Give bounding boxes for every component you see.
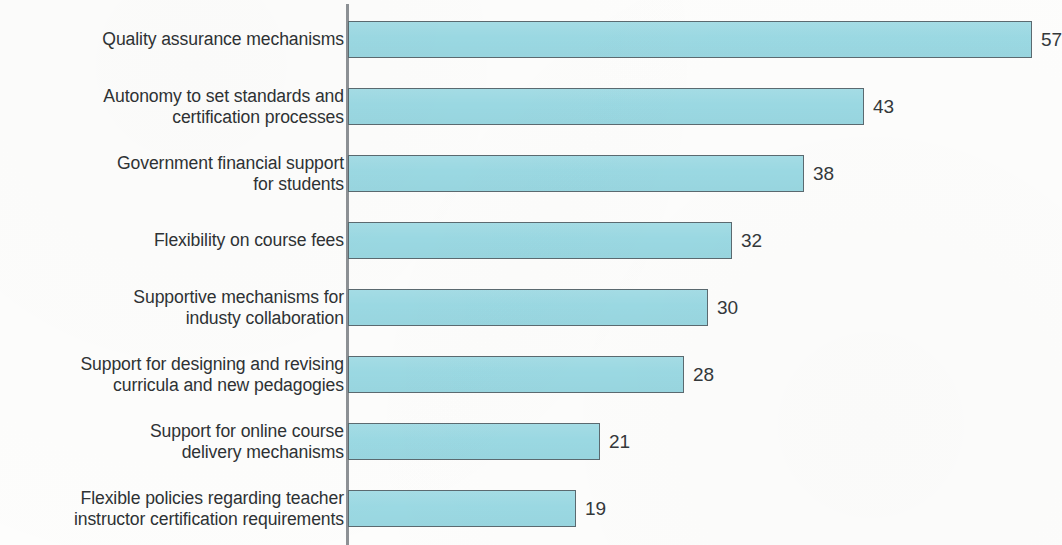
table-row: Support for designing and revising curri…: [0, 356, 1062, 393]
bar-group: 21: [348, 423, 630, 460]
category-label: Supportive mechanisms for industy collab…: [4, 287, 344, 329]
bar: [348, 289, 708, 326]
table-row: Autonomy to set standards and certificat…: [0, 88, 1062, 125]
bar-chart: Quality assurance mechanisms 57 Autonomy…: [0, 0, 1062, 545]
table-row: Quality assurance mechanisms 57: [0, 21, 1062, 58]
bar: [348, 423, 600, 460]
category-label: Support for designing and revising curri…: [4, 354, 344, 396]
plot-area: Quality assurance mechanisms 57 Autonomy…: [0, 0, 1062, 545]
bar: [348, 21, 1032, 58]
table-row: Flexible policies regarding teacher inst…: [0, 490, 1062, 527]
category-label: Quality assurance mechanisms: [4, 29, 344, 50]
category-label: Flexible policies regarding teacher inst…: [4, 488, 344, 530]
bar-group: 38: [348, 155, 834, 192]
bar-group: 32: [348, 222, 762, 259]
category-axis-line: [346, 4, 349, 545]
table-row: Supportive mechanisms for industy collab…: [0, 289, 1062, 326]
bar-group: 57: [348, 21, 1062, 58]
bar-value-label: 19: [585, 499, 606, 518]
bar: [348, 155, 804, 192]
bar-group: 19: [348, 490, 606, 527]
bar-value-label: 28: [693, 365, 714, 384]
category-label: Flexibility on course fees: [4, 230, 344, 251]
table-row: Flexibility on course fees 32: [0, 222, 1062, 259]
table-row: Support for online course delivery mecha…: [0, 423, 1062, 460]
category-label: Support for online course delivery mecha…: [4, 421, 344, 463]
bar: [348, 490, 576, 527]
bar: [348, 88, 864, 125]
bar-value-label: 21: [609, 432, 630, 451]
bar-value-label: 43: [873, 97, 894, 116]
category-label: Autonomy to set standards and certificat…: [4, 86, 344, 128]
bar-value-label: 32: [741, 231, 762, 250]
bar-group: 28: [348, 356, 714, 393]
bar-group: 43: [348, 88, 894, 125]
table-row: Government financial support for student…: [0, 155, 1062, 192]
bar-value-label: 57: [1041, 30, 1062, 49]
bar: [348, 222, 732, 259]
bar-value-label: 38: [813, 164, 834, 183]
category-label: Government financial support for student…: [4, 153, 344, 195]
bar-value-label: 30: [717, 298, 738, 317]
bar-group: 30: [348, 289, 738, 326]
bar: [348, 356, 684, 393]
